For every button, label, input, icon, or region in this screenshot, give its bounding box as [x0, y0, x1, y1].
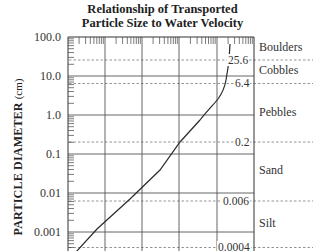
- category-label-boulders: Boulders: [259, 41, 302, 53]
- boundary-label-25.6: 25.6: [227, 54, 249, 66]
- boundary-label-0.2: 0.2: [234, 136, 250, 148]
- boundary-label-0.006: 0.006: [222, 195, 250, 207]
- boundary-label-6.4: 6.4: [234, 77, 250, 89]
- category-label-sand: Sand: [259, 164, 283, 176]
- category-label-cobbles: Cobbles: [259, 64, 298, 76]
- grid-lines: [68, 37, 254, 251]
- boundary-label-0.0004: 0.0004: [217, 241, 251, 251]
- axes-frame: [68, 37, 254, 251]
- y-minor-ticks: [68, 39, 74, 248]
- category-label-pebbles: Pebbles: [259, 106, 296, 118]
- category-label-silt: Silt: [259, 217, 276, 229]
- transport-curve: [76, 44, 230, 251]
- chart-plot: [0, 0, 323, 251]
